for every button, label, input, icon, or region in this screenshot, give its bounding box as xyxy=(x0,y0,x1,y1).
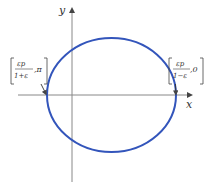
x-axis-label: x xyxy=(186,98,193,111)
right-denominator: 1−ε xyxy=(173,72,187,80)
left-point-arrow xyxy=(41,84,46,93)
left-numerator: εp xyxy=(17,60,26,68)
y-axis-label: y xyxy=(58,4,66,17)
right-numerator: εp xyxy=(176,60,185,68)
left-denominator: 1+ε xyxy=(14,72,28,80)
left-point-label: εp 1+ε ,π xyxy=(11,58,47,84)
right-angle: ,0 xyxy=(190,65,198,74)
left-angle: ,π xyxy=(34,65,43,74)
diagram-canvas: y x εp 1+ε ,π εp 1−ε ,0 xyxy=(0,0,205,185)
